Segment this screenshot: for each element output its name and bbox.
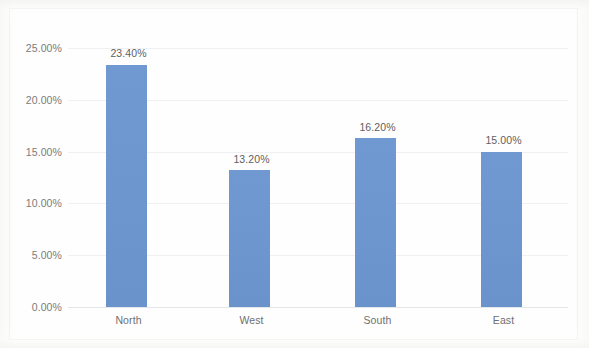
bar-south[interactable] [355,138,396,307]
data-label-south: 16.20% [335,121,420,133]
y-axis-tick-5: 5.00% [10,249,62,261]
data-label-north: 23.40% [86,47,171,59]
x-axis-label-south: South [313,314,442,326]
bar-north[interactable] [106,65,147,308]
data-label-west: 13.20% [209,153,294,165]
y-axis-tick-25: 25.00% [10,42,62,54]
gridline-baseline-0 [68,307,568,308]
y-axis-tick-0: 0.00% [10,301,62,313]
y-axis-tick-15: 15.00% [10,146,62,158]
bar-east[interactable] [481,152,522,307]
y-axis-tick-10: 10.00% [10,197,62,209]
y-axis-tick-20: 20.00% [10,94,62,106]
x-axis-label-west: West [187,314,316,326]
bar-west[interactable] [229,170,270,307]
plot-area [68,48,568,307]
data-label-east: 15.00% [461,134,546,146]
x-axis-label-east: East [439,314,568,326]
x-axis-label-north: North [64,314,193,326]
bar-chart-screenshot: 25.00% 20.00% 15.00% 10.00% 5.00% 0.00% … [0,0,589,348]
